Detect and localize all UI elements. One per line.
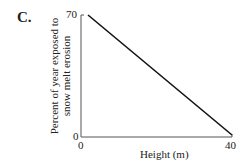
x-tick-0: 0 (78, 139, 84, 151)
x-axis-label: Height (m) (140, 148, 189, 160)
x-tick-40: 40 (225, 139, 236, 151)
y-axis-label-line2: snow melt erosion (60, 11, 72, 141)
y-axis-label-line1: Percent of year exposed to (48, 11, 60, 141)
y-axis-label: Percent of year exposed to snow melt ero… (48, 11, 72, 141)
data-line (88, 15, 232, 135)
line-chart (0, 0, 246, 167)
